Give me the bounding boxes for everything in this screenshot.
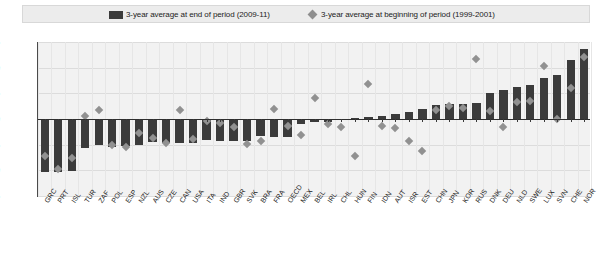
legend-bars-label: 3-year average at end of period (2009-11… [126, 10, 270, 19]
x-axis-tick [193, 119, 194, 122]
x-axis-tick [139, 119, 140, 122]
x-axis-tick [126, 119, 127, 122]
x-axis-tick [153, 119, 154, 122]
data-marker [540, 62, 548, 70]
bar [41, 119, 49, 172]
bar [95, 119, 103, 145]
data-marker [351, 152, 359, 160]
legend-markers-label: 3-year average at beginning of period (1… [321, 10, 495, 19]
x-axis-tick [99, 119, 100, 122]
vertical-gridline [591, 42, 592, 196]
data-marker [337, 122, 345, 130]
x-axis-tick [341, 119, 342, 122]
x-axis-tick [530, 119, 531, 122]
x-axis-tick [234, 119, 235, 122]
bar [540, 78, 548, 119]
x-axis-tick [85, 119, 86, 122]
gridline [38, 170, 590, 171]
x-axis-tick [220, 119, 221, 122]
x-axis-tick [571, 119, 572, 122]
x-axis-tick [180, 119, 181, 122]
x-axis-tick [395, 119, 396, 122]
x-axis-tick [463, 119, 464, 122]
legend-entry-markers: 3-year average at beginning of period (1… [306, 8, 495, 21]
x-axis-tick [557, 119, 558, 122]
data-marker [499, 123, 507, 131]
x-axis-tick [301, 119, 302, 122]
x-axis-tick [517, 119, 518, 122]
x-axis-tick [503, 119, 504, 122]
data-marker [472, 55, 480, 63]
chart-figure: 3-year average at end of period (2009-11… [0, 0, 601, 261]
x-axis-tick [288, 119, 289, 122]
data-marker [378, 121, 386, 129]
gridline [38, 42, 590, 43]
data-marker [297, 131, 305, 139]
x-axis-tick [207, 119, 208, 122]
x-axis-tick [422, 119, 423, 122]
bar [553, 75, 561, 119]
x-axis-tick [315, 119, 316, 122]
chart-legend: 3-year average at end of period (2009-11… [22, 5, 590, 23]
plot-area [37, 42, 590, 196]
bar [405, 112, 413, 119]
data-marker [243, 139, 251, 147]
bar [175, 119, 183, 143]
x-axis-tick [382, 119, 383, 122]
data-marker [364, 79, 372, 87]
x-axis-tick [247, 119, 248, 122]
x-axis-tick [45, 119, 46, 122]
gridline [38, 68, 590, 69]
legend-entry-bars: 3-year average at end of period (2009-11… [109, 8, 270, 21]
bar [418, 109, 426, 119]
data-marker [418, 147, 426, 155]
x-axis-tick [355, 119, 356, 122]
x-axis-tick [584, 119, 585, 122]
data-marker [391, 124, 399, 132]
data-marker [175, 106, 183, 114]
x-axis-tick [328, 119, 329, 122]
x-axis-tick [436, 119, 437, 122]
legend-diamond-swatch-icon [308, 10, 318, 20]
x-axis-tick [58, 119, 59, 122]
x-axis-tick [72, 119, 73, 122]
x-axis-tick [112, 119, 113, 122]
data-marker [94, 106, 102, 114]
x-axis-tick [544, 119, 545, 122]
x-axis-tick [274, 119, 275, 122]
x-axis-tick [261, 119, 262, 122]
x-axis-tick [476, 119, 477, 122]
x-axis-tick [449, 119, 450, 122]
bar [68, 119, 76, 171]
bar [499, 90, 507, 119]
x-axis-tick [368, 119, 369, 122]
x-axis-labels: GRCPRTISLTURZAFPOLESPNZLAUSCZECANUSAITAI… [37, 198, 590, 258]
data-marker [310, 94, 318, 102]
x-axis-tick [166, 119, 167, 122]
data-marker [256, 136, 264, 144]
bar [472, 103, 480, 119]
data-marker [405, 136, 413, 144]
legend-bar-swatch-icon [109, 11, 123, 19]
bar [81, 119, 89, 148]
bar [243, 119, 251, 141]
x-axis-tick [409, 119, 410, 122]
x-axis-tick [490, 119, 491, 122]
data-marker [270, 104, 278, 112]
